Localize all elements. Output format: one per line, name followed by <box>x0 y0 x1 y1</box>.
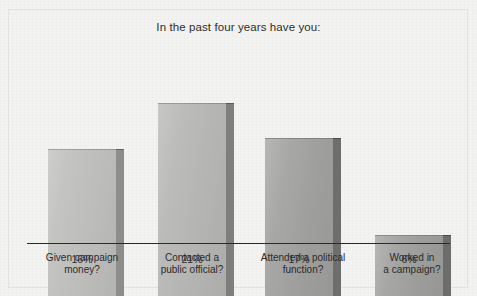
x-label-line-2: function? <box>245 264 361 276</box>
plot-area: 16% 21% 17% 6% Given campaign money? Con… <box>0 0 477 296</box>
x-label-line-2: a campaign? <box>364 264 460 276</box>
x-axis-label-contacted-public-official: Contacted a public official? <box>142 252 242 276</box>
x-label-line-1: Contacted a <box>142 252 242 264</box>
x-label-line-1: Given campaign <box>34 252 130 264</box>
x-axis-label-attended-political-function: Attended a political function? <box>245 252 361 276</box>
x-label-line-1: Worked in <box>364 252 460 264</box>
x-label-line-2: money? <box>34 264 130 276</box>
bar-chart: In the past four years have you: 16% 21%… <box>0 0 477 296</box>
x-axis-label-worked-in-campaign: Worked in a campaign? <box>364 252 460 276</box>
x-axis-line <box>27 243 450 244</box>
x-label-line-1: Attended a political <box>245 252 361 264</box>
x-axis-label-given-campaign-money: Given campaign money? <box>34 252 130 276</box>
x-label-line-2: public official? <box>142 264 242 276</box>
